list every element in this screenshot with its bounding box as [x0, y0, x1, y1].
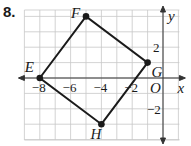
coordinate-diagram: 8. yxO−8−6−4−22−2EFGH [0, 0, 191, 146]
point-label-e: E [24, 59, 34, 75]
y-axis-arrow-down-icon [161, 138, 166, 144]
x-tick-label: −6 [63, 80, 77, 95]
point-label-h: H [89, 126, 102, 142]
y-tick-label: 2 [153, 40, 160, 55]
x-axis-arrow-left-icon [18, 76, 24, 81]
x-axis-label: x [176, 80, 184, 96]
y-axis-arrow-up-icon [161, 6, 166, 12]
x-tick-label: −8 [32, 80, 46, 95]
point-label-f: F [70, 5, 81, 21]
y-axis-label: y [166, 8, 175, 24]
y-tick-label: −2 [147, 102, 161, 117]
square-efgh [40, 16, 148, 124]
point-e [37, 75, 44, 82]
point-label-g: G [152, 64, 163, 80]
point-f [83, 13, 90, 20]
origin-label: O [150, 80, 161, 96]
x-tick-label: −2 [124, 80, 138, 95]
x-tick-label: −4 [93, 80, 107, 95]
point-g [144, 59, 151, 66]
coordinate-plane: yxO−8−6−4−22−2EFGH [0, 0, 191, 146]
